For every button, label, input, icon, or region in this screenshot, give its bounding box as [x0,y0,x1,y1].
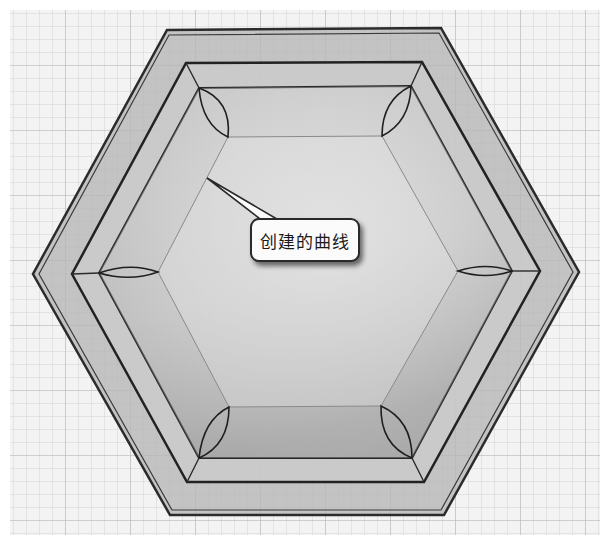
hex-tray-diagram [0,0,612,545]
callout-label: 创建的曲线 [250,218,360,262]
